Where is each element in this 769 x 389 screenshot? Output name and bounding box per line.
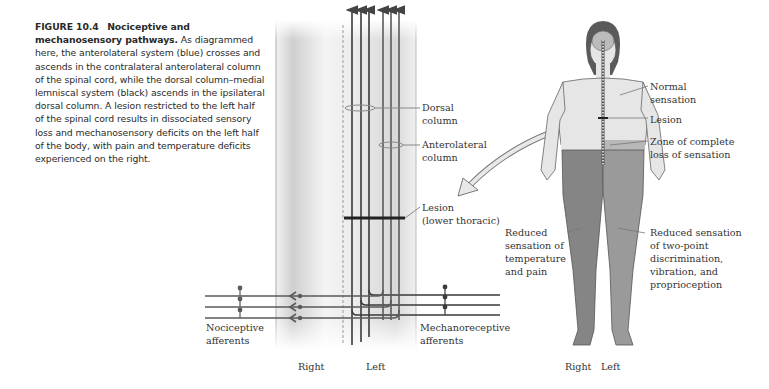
svg-text:proprioception: proprioception bbox=[650, 279, 722, 290]
label-reduced-temperature-pain: Reduced bbox=[505, 227, 547, 238]
svg-text:loss of sensation: loss of sensation bbox=[650, 149, 730, 160]
svg-text:column: column bbox=[422, 115, 458, 126]
svg-text:column: column bbox=[422, 152, 458, 163]
svg-text:sensation: sensation bbox=[650, 94, 696, 105]
label-right-body: Right bbox=[565, 361, 592, 372]
svg-text:of two-point: of two-point bbox=[650, 240, 709, 251]
label-lesion-lower-thoracic: Lesion bbox=[422, 202, 454, 213]
lower-body-left bbox=[603, 150, 644, 345]
svg-text:afferents: afferents bbox=[420, 335, 464, 346]
svg-text:vibration, and: vibration, and bbox=[649, 266, 718, 277]
label-normal-sensation: Normal bbox=[650, 81, 687, 92]
label-right-cord: Right bbox=[298, 361, 325, 372]
mechanoreceptive-ganglia bbox=[443, 285, 448, 315]
svg-text:sensation of: sensation of bbox=[505, 240, 565, 251]
label-left-body: Left bbox=[601, 361, 621, 372]
label-dorsal-column: Dorsal bbox=[422, 102, 454, 113]
label-mechanoreceptive-afferents: Mechanoreceptive bbox=[420, 322, 511, 333]
label-reduced-two-point: Reduced sensation bbox=[650, 227, 742, 238]
svg-text:afferents: afferents bbox=[206, 335, 250, 346]
svg-text:(lower thoracic): (lower thoracic) bbox=[422, 215, 500, 226]
label-zone-complete-loss: Zone of complete bbox=[650, 136, 735, 147]
body-figure: Normal sensation Lesion Zone of complete… bbox=[505, 21, 742, 372]
label-body-lesion: Lesion bbox=[650, 114, 682, 125]
svg-text:temperature: temperature bbox=[505, 253, 566, 264]
figure-illustration: Dorsal column Anterolateral column Lesio… bbox=[0, 0, 769, 389]
svg-text:and pain: and pain bbox=[505, 266, 547, 277]
label-anterolateral-column: Anterolateral bbox=[421, 139, 487, 150]
svg-text:discrimination,: discrimination, bbox=[650, 253, 723, 264]
label-left-cord: Left bbox=[366, 361, 386, 372]
nociceptive-afferents bbox=[205, 292, 300, 322]
label-nociceptive-afferents: Nociceptive bbox=[206, 322, 264, 333]
lower-body-right bbox=[562, 150, 603, 345]
